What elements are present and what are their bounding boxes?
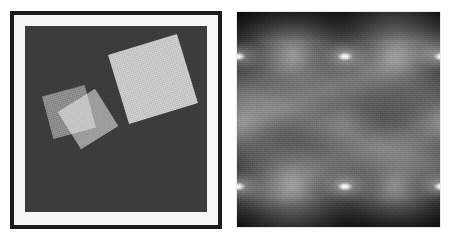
- spectrum-peak: [433, 182, 441, 191]
- spectrum-peak: [337, 52, 353, 61]
- spectrum-lobe-layer: [237, 12, 440, 227]
- left-panel-spatial-image: [10, 11, 222, 229]
- spatial-image-canvas: [25, 26, 207, 212]
- right-panel-fourier-spectrum: [236, 11, 441, 228]
- spectrum-peak: [433, 52, 441, 61]
- figure-image-pair: [0, 0, 450, 240]
- spectrum-peak: [337, 182, 353, 191]
